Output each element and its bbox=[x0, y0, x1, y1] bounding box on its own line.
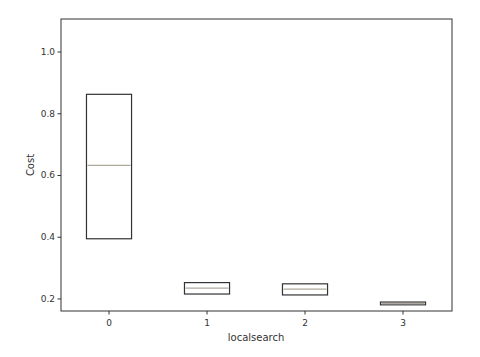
axes: 0.20.40.60.81.00123 bbox=[41, 19, 452, 328]
y-axis-label: Cost bbox=[25, 154, 36, 176]
box-3 bbox=[380, 302, 425, 305]
x-axis-label: localsearch bbox=[228, 332, 285, 343]
x-tick-label: 1 bbox=[204, 318, 210, 328]
x-tick-label: 3 bbox=[400, 318, 406, 328]
box-2 bbox=[282, 284, 327, 295]
box-body bbox=[86, 94, 131, 238]
x-tick-label: 2 bbox=[302, 318, 308, 328]
y-tick-label: 1.0 bbox=[41, 47, 56, 57]
y-tick-label: 0.4 bbox=[41, 232, 56, 242]
y-tick-label: 0.2 bbox=[41, 294, 55, 304]
box-plot: 0.20.40.60.81.00123 localsearch Cost bbox=[0, 0, 480, 357]
plot-area bbox=[86, 94, 425, 305]
x-tick-label: 0 bbox=[106, 318, 112, 328]
y-tick-label: 0.8 bbox=[41, 109, 56, 119]
box-1 bbox=[184, 283, 229, 294]
box-0 bbox=[86, 94, 131, 238]
y-tick-label: 0.6 bbox=[41, 170, 56, 180]
